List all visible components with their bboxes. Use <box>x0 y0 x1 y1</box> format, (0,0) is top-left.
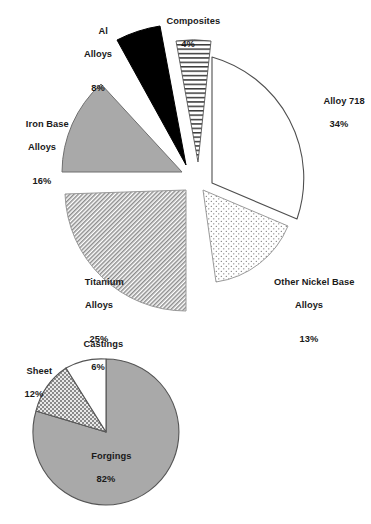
pie-slice-alloy-718 <box>212 57 304 219</box>
product-form-distribution-pie-chart <box>0 320 371 524</box>
pie-slice-titanium-alloys <box>65 190 186 311</box>
material-distribution-pie-chart <box>0 0 371 320</box>
figure-root: Composites 4% Al Alloys 8% Iron Base All… <box>0 0 371 524</box>
